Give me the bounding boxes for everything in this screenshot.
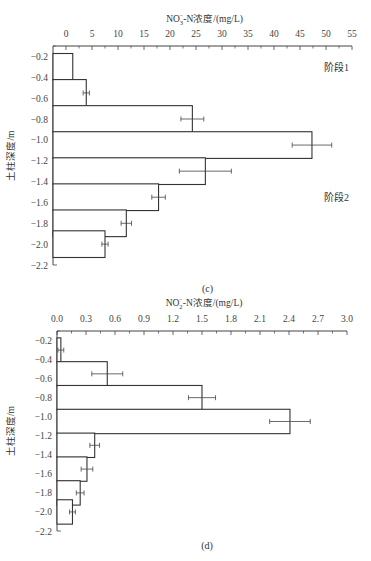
- y-tick-label: −0.2: [35, 336, 52, 346]
- y-tick-label: −1.2: [31, 156, 48, 166]
- x-tick-label: 1.8: [225, 314, 237, 324]
- x-tick-label: 0.3: [80, 314, 92, 324]
- x-tick-label: 20: [165, 29, 175, 39]
- x-tick-label: 0.9: [138, 314, 150, 324]
- x-axis-title-rest: -N浓度/(mg/L): [183, 297, 243, 309]
- y-axis-title: 土柱深度/m: [5, 130, 16, 181]
- x-tick-label: 35: [243, 29, 253, 39]
- y-tick-label: −2.0: [31, 240, 48, 250]
- y-tick-label: −2.2: [35, 527, 52, 537]
- bar: [53, 132, 312, 159]
- y-tick-label: −1.2: [35, 431, 52, 441]
- figure: 0510152025303540455055−0.2−0.4−0.6−0.8−1…: [0, 0, 371, 561]
- y-tick-label: −0.4: [35, 355, 52, 365]
- y-tick-label: −0.2: [31, 52, 48, 62]
- x-axis-title-main: NO: [166, 14, 180, 24]
- x-tick-label: 3.0: [341, 314, 353, 324]
- y-tick-label: −2.0: [35, 507, 52, 517]
- chart-panel-d: 0.00.30.60.91.21.51.82.12.42.73.0−0.2−0.…: [5, 296, 353, 552]
- chart-panel-c: 0510152025303540455055−0.2−0.4−0.6−0.8−1…: [5, 12, 357, 295]
- y-tick-label: −1.8: [35, 488, 52, 498]
- x-tick-label: 55: [347, 29, 357, 39]
- stage-annotation: 阶段1: [324, 61, 349, 73]
- bar: [57, 409, 290, 433]
- x-tick-label: 40: [269, 29, 279, 39]
- x-axis-title-main: NO: [166, 298, 180, 308]
- x-axis-title-rest: -N浓度/(mg/L): [183, 13, 243, 25]
- y-tick-label: −0.4: [31, 73, 48, 83]
- x-tick-label: 1.5: [196, 314, 208, 324]
- bar: [53, 106, 192, 133]
- bar: [53, 231, 105, 258]
- y-tick-label: −2.2: [31, 261, 48, 271]
- x-axis-title: NO2−-N浓度/(mg/L): [166, 296, 243, 310]
- y-axis-title: 土柱深度/m: [5, 405, 16, 456]
- y-tick-label: −1.6: [31, 198, 48, 208]
- y-tick-label: −1.6: [35, 469, 52, 479]
- x-tick-label: 30: [217, 29, 227, 39]
- x-tick-label: 2.1: [254, 314, 266, 324]
- bar: [53, 184, 159, 211]
- x-tick-label: 1.2: [167, 314, 179, 324]
- x-tick-label: 10: [113, 29, 123, 39]
- panel-caption: (d): [201, 540, 213, 552]
- x-tick-label: 5: [90, 29, 95, 39]
- y-tick-label: −1.4: [31, 177, 48, 187]
- y-tick-label: −0.6: [31, 94, 48, 104]
- x-tick-label: 2.7: [312, 314, 324, 324]
- x-tick-label: 45: [295, 29, 305, 39]
- y-tick-label: −0.8: [31, 115, 48, 125]
- x-tick-label: 0.0: [51, 314, 63, 324]
- x-tick-label: 50: [321, 29, 331, 39]
- y-tick-label: −1.0: [35, 412, 52, 422]
- x-tick-label: 2.4: [283, 314, 295, 324]
- bar: [53, 80, 86, 107]
- bar: [53, 54, 73, 81]
- y-tick-label: −1.4: [35, 450, 52, 460]
- y-tick-label: −0.8: [35, 393, 52, 403]
- x-axis-title: NO3−-N浓度/(mg/L): [166, 12, 243, 26]
- x-tick-label: 25: [191, 29, 201, 39]
- bar: [57, 433, 95, 457]
- stage-annotation: 阶段2: [324, 191, 349, 203]
- bar: [57, 385, 202, 409]
- y-tick-label: −1.0: [31, 135, 48, 145]
- y-tick-label: −0.6: [35, 374, 52, 384]
- x-tick-label: 0.6: [109, 314, 121, 324]
- y-tick-label: −1.8: [31, 219, 48, 229]
- panel-caption: (c): [202, 283, 213, 295]
- x-tick-label: 15: [139, 29, 149, 39]
- x-tick-label: 0: [64, 29, 69, 39]
